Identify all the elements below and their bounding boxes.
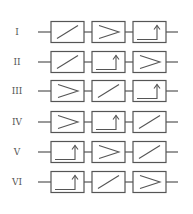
step-arrow-block [51,172,84,193]
row-label: II [13,57,21,67]
row-3: III [12,81,178,102]
diagonal-line-block [133,142,166,163]
diagonal-line-block [51,22,84,43]
row-2: II [13,52,178,73]
row-label: IV [12,117,23,127]
diagonal-line-block [51,52,84,73]
step-arrow-block [133,81,166,102]
row-label: III [12,86,23,96]
row-label: I [15,27,19,37]
row-label: V [13,147,21,157]
diagonal-line-block [92,172,125,193]
step-arrow-block [92,52,125,73]
greater-than-block [133,172,166,193]
row-4: IV [12,112,178,133]
row-label: VI [11,177,22,187]
row-6: VI [11,172,178,193]
diagonal-line-block [92,81,125,102]
step-arrow-block [92,112,125,133]
greater-than-block [51,81,84,102]
block-diagram: IIIIIIIVVVI [0,0,193,214]
greater-than-block [92,142,125,163]
row-5: V [13,142,178,163]
row-1: I [15,22,178,43]
greater-than-block [133,52,166,73]
step-arrow-block [133,22,166,43]
greater-than-block [51,112,84,133]
diagonal-line-block [133,112,166,133]
step-arrow-block [51,142,84,163]
greater-than-block [92,22,125,43]
